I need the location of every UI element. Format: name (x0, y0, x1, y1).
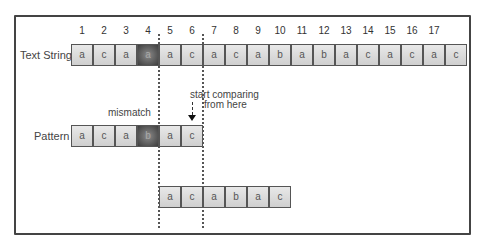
char-cell: a (247, 44, 269, 66)
char-cell: a (71, 44, 93, 66)
index-number: 3 (115, 25, 137, 36)
char-cell: c (357, 44, 379, 66)
arrow-shaft (192, 102, 193, 115)
char-cell: b (269, 44, 291, 66)
index-number: 12 (313, 25, 335, 36)
mismatch-cell: b (137, 125, 159, 147)
index-number: 10 (269, 25, 291, 36)
index-number: 7 (203, 25, 225, 36)
char-cell: c (93, 125, 115, 147)
text-string-label: Text String (20, 49, 72, 61)
char-cell: a (291, 44, 313, 66)
index-number: 4 (137, 25, 159, 36)
char-cell: c (181, 186, 203, 208)
char-cell: b (313, 44, 335, 66)
char-cell: c (93, 44, 115, 66)
index-number: 6 (181, 25, 203, 36)
index-number: 5 (159, 25, 181, 36)
char-cell: a (71, 125, 93, 147)
char-cell: c (181, 125, 203, 147)
char-cell: c (225, 44, 247, 66)
char-cell: c (269, 186, 291, 208)
char-cell: a (115, 125, 137, 147)
index-number: 1 (71, 25, 93, 36)
mismatch-cell: a (137, 44, 159, 66)
index-number: 13 (335, 25, 357, 36)
char-cell: a (203, 186, 225, 208)
pattern-label: Pattern (34, 130, 69, 142)
index-number: 8 (225, 25, 247, 36)
char-cell: c (401, 44, 423, 66)
index-number: 2 (93, 25, 115, 36)
index-number: 16 (401, 25, 423, 36)
char-cell: a (159, 44, 181, 66)
index-number: 17 (423, 25, 445, 36)
char-cell: c (445, 44, 467, 66)
down-arrow-icon (188, 115, 196, 121)
char-cell: a (335, 44, 357, 66)
index-number: 11 (291, 25, 313, 36)
dotted-guide-line-2 (202, 34, 204, 228)
dotted-guide-line-1 (158, 34, 160, 228)
char-cell: a (423, 44, 445, 66)
char-cell: a (115, 44, 137, 66)
char-cell: a (247, 186, 269, 208)
char-cell: a (159, 125, 181, 147)
char-cell: a (203, 44, 225, 66)
char-cell: b (225, 186, 247, 208)
char-cell: c (181, 44, 203, 66)
char-cell: a (379, 44, 401, 66)
start-comparing-label-line2: from here (204, 99, 247, 110)
index-number: 9 (247, 25, 269, 36)
char-cell: a (159, 186, 181, 208)
index-number: 14 (357, 25, 379, 36)
mismatch-label: mismatch (108, 107, 151, 118)
index-number: 15 (379, 25, 401, 36)
